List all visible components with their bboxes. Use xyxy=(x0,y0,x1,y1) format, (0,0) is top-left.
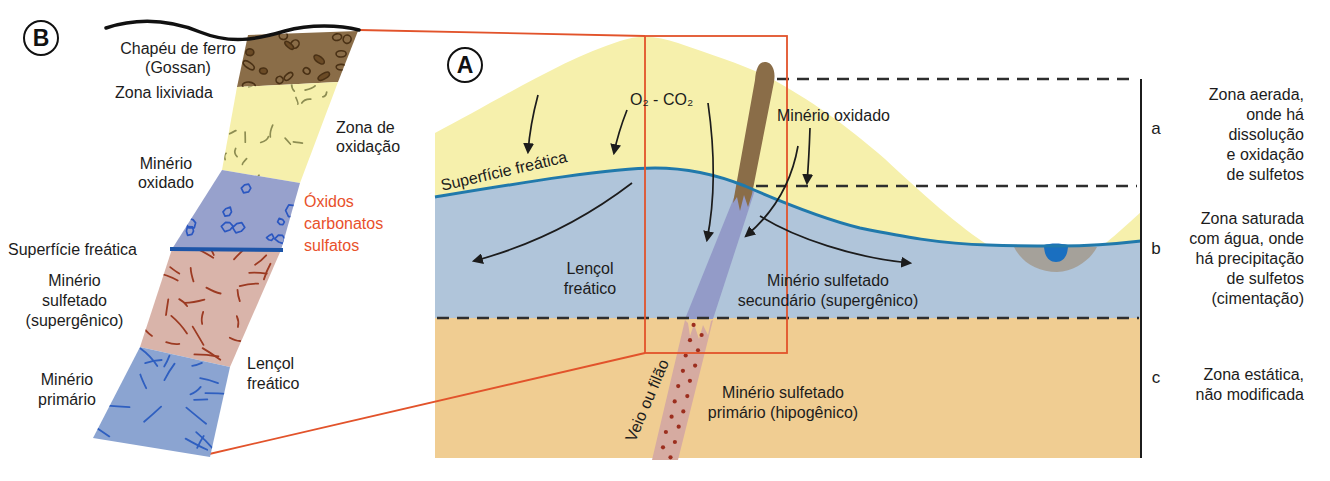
zone-c-description: Zona estática, não modificada xyxy=(1134,365,1304,405)
label-phreatic-b-line2: freático xyxy=(247,374,299,394)
label-oxides-line2: carbonatos xyxy=(304,213,383,235)
zone-b-description-line1: Zona saturada xyxy=(1134,209,1304,229)
label-phreatic-b: Lençol freático xyxy=(247,354,299,394)
label-gossan-line2: (Gossan) xyxy=(104,58,252,77)
label-oxides: Óxidos carbonatos sulfatos xyxy=(304,191,383,257)
column-oxidation-section xyxy=(222,82,338,183)
zone-b-description-line3: há precipitação xyxy=(1134,249,1304,269)
label-supergene-ore-b-line3: (supergênico) xyxy=(2,311,147,331)
zone-c-description-line2: não modificada xyxy=(1134,385,1304,405)
zone-b-description-line2: com água, onde xyxy=(1134,229,1304,249)
zoom-link-top-line xyxy=(359,30,645,36)
label-oxidation-zone: Zona de oxidação xyxy=(336,118,400,156)
label-oxidized-ore-b-line1: Minério xyxy=(126,154,206,173)
label-primary-ore-a-line1: Minério sulfetado xyxy=(671,383,895,403)
label-gossan: Chapéu de ferro (Gossan) xyxy=(104,39,252,77)
column-watertable-line xyxy=(170,249,283,250)
label-supergene-ore-b-line1: Minério xyxy=(2,271,147,291)
label-primary-ore-a-line2: primário (hipogênico) xyxy=(671,403,895,423)
label-secondary-ore-a: Minério sulfetado secundário (supergênic… xyxy=(716,271,940,311)
label-oxidation-zone-line2: oxidação xyxy=(336,137,400,156)
label-primary-ore-b-line1: Minério xyxy=(27,370,107,390)
label-phreatic-b-line1: Lençol xyxy=(247,354,299,374)
label-gases: O₂ - CO₂ xyxy=(630,90,693,109)
label-supergene-ore-b: Minério sulfetado (supergênico) xyxy=(2,271,147,331)
label-leached-zone: Zona lixiviada xyxy=(115,83,213,102)
label-secondary-ore-a-line1: Minério sulfetado xyxy=(716,271,940,291)
label-oxides-line1: Óxidos xyxy=(304,191,383,213)
label-primary-ore-b: Minério primário xyxy=(27,370,107,410)
panel-b-badge: B xyxy=(23,20,59,56)
label-gossan-line1: Chapéu de ferro xyxy=(104,39,252,58)
label-supergene-ore-b-line2: sulfetado xyxy=(2,291,147,311)
zone-b-description-line5: (cimentação) xyxy=(1134,289,1304,309)
label-primary-ore-b-line2: primário xyxy=(27,390,107,410)
panel-a-badge: A xyxy=(447,47,483,83)
zone-a-description-line1: Zona aerada, xyxy=(1134,85,1304,105)
zone-c-description-line1: Zona estática, xyxy=(1134,365,1304,385)
column-supergene-section xyxy=(140,249,281,367)
zone-a-description-line2: onde há xyxy=(1134,105,1304,125)
label-phreatic-a: Lençol freático xyxy=(550,259,630,299)
label-oxidized-ore-b-line2: oxidado xyxy=(126,173,206,192)
label-primary-ore-a: Minério sulfetado primário (hipogênico) xyxy=(671,383,895,423)
zone-b-description-line4: de sulfetos xyxy=(1134,269,1304,289)
label-oxides-line3: sulfatos xyxy=(304,235,383,257)
zone-a-description-line5: de sulfetos xyxy=(1134,165,1304,185)
geology-supergene-diagram: B A Chapéu de ferro (Gossan) Zona lixivi… xyxy=(0,0,1330,481)
zone-b-description: Zona saturada com água, onde há precipit… xyxy=(1134,209,1304,309)
label-oxidized-ore-a: Minério oxidado xyxy=(777,106,890,125)
label-secondary-ore-a-line2: secundário (supergênico) xyxy=(716,291,940,311)
zone-a-description: Zona aerada, onde há dissolução e oxidaç… xyxy=(1134,85,1304,185)
zone-a-description-line4: e oxidação xyxy=(1134,145,1304,165)
column-primary-section xyxy=(93,347,230,457)
label-phreatic-a-line2: freático xyxy=(550,279,630,299)
zone-a-description-line3: dissolução xyxy=(1134,125,1304,145)
label-oxidation-zone-line1: Zona de xyxy=(336,118,400,137)
label-phreatic-a-line1: Lençol xyxy=(550,259,630,279)
label-watertable-b: Superfície freática xyxy=(8,240,137,259)
label-oxidized-ore-b: Minério oxidado xyxy=(126,154,206,192)
